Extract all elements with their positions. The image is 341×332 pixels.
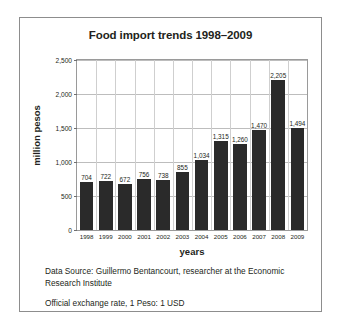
bar-value-label: 704 <box>77 174 96 181</box>
bar-group: 7041998 <box>77 60 96 230</box>
bar-group: 6722000 <box>115 60 134 230</box>
bar-group: 2,2052008 <box>269 60 288 230</box>
bar <box>291 128 305 230</box>
bar-series: 7041998722199967220007562001738200285520… <box>77 60 307 230</box>
y-tick-label: 1,500 <box>55 125 72 132</box>
y-tick-label: 500 <box>61 193 72 200</box>
x-tick-label: 2004 <box>192 233 211 240</box>
y-axis-title: million pesos <box>31 96 42 176</box>
bar-value-label: 1,315 <box>211 133 230 140</box>
figure-card: Food import trends 1998–2009 million pes… <box>19 17 322 312</box>
bar-value-label: 855 <box>173 164 192 171</box>
x-tick-label: 1998 <box>77 233 96 240</box>
x-tick-label: 2007 <box>250 233 269 240</box>
bar <box>118 184 132 230</box>
bar-value-label: 1,034 <box>192 152 211 159</box>
bar-group: 8552003 <box>173 60 192 230</box>
footnotes: Data Source: Guillermo Bentancourt, rese… <box>45 265 303 309</box>
bar-value-label: 1,470 <box>250 122 269 129</box>
y-tick-label: 2,500 <box>55 57 72 64</box>
x-tick-label: 2001 <box>135 233 154 240</box>
x-tick-label: 2002 <box>154 233 173 240</box>
bar-group: 7562001 <box>135 60 154 230</box>
bar-group: 7221999 <box>96 60 115 230</box>
bar-group: 1,3152005 <box>211 60 230 230</box>
bar <box>271 80 285 230</box>
x-axis-title: years <box>76 246 308 257</box>
bar <box>99 181 113 230</box>
bar-value-label: 738 <box>154 172 173 179</box>
x-tick-label: 2000 <box>115 233 134 240</box>
bar <box>176 172 190 230</box>
y-tick-mark <box>74 230 77 231</box>
footnote-data-source: Data Source: Guillermo Bentancourt, rese… <box>45 265 303 289</box>
bar-group: 1,2602006 <box>230 60 249 230</box>
bar-value-label: 1,494 <box>288 120 307 127</box>
x-tick-label: 2009 <box>288 233 307 240</box>
bar-group: 1,4942009 <box>288 60 307 230</box>
x-tick-label: 2008 <box>269 233 288 240</box>
bar-value-label: 722 <box>96 173 115 180</box>
bar-group: 1,4702007 <box>250 60 269 230</box>
bar-value-label: 756 <box>135 171 154 178</box>
bar-value-label: 672 <box>115 176 134 183</box>
bar <box>137 179 151 230</box>
y-tick-label: 1,000 <box>55 159 72 166</box>
bar-value-label: 2,205 <box>269 72 288 79</box>
bar <box>80 182 94 230</box>
x-tick-label: 2005 <box>211 233 230 240</box>
x-tick-label: 2006 <box>230 233 249 240</box>
bar-group: 7382002 <box>154 60 173 230</box>
bar <box>214 141 228 230</box>
bar-value-label: 1,260 <box>230 136 249 143</box>
bar <box>195 160 209 230</box>
bar <box>233 144 247 230</box>
y-tick-label: 0 <box>68 227 72 234</box>
bar-group: 1,0342004 <box>192 60 211 230</box>
chart-title: Food import trends 1998–2009 <box>20 29 321 41</box>
bar <box>156 180 170 230</box>
x-tick-label: 2003 <box>173 233 192 240</box>
plot-area: 05001,0001,5002,0002,500 704199872219996… <box>76 59 308 231</box>
bar <box>252 130 266 230</box>
x-tick-label: 1999 <box>96 233 115 240</box>
footnote-exchange-rate: Official exchange rate, 1 Peso: 1 USD <box>45 297 303 309</box>
y-tick-label: 2,000 <box>55 91 72 98</box>
